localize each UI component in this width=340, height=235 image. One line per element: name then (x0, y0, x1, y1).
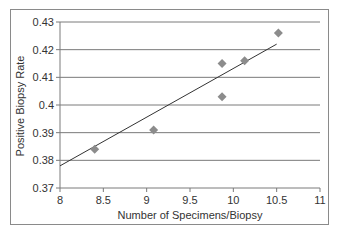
diamond-marker (90, 145, 99, 154)
y-tick-label: 0.38 (33, 154, 54, 166)
x-tick-label: 9 (144, 194, 150, 206)
diamond-marker (218, 92, 227, 101)
gridlines (60, 22, 320, 160)
y-axis-title: Positive Biopsy Rate (14, 56, 26, 157)
y-tick-label: 0.4 (39, 99, 54, 111)
x-tick-label: 10 (227, 194, 239, 206)
x-tick-label: 11 (314, 194, 325, 206)
x-axis-title: Number of Specimens/Biopsy (118, 209, 263, 221)
x-tick-label: 10.5 (266, 194, 287, 206)
y-tick-label: 0.41 (33, 71, 54, 83)
x-tick-label: 8.5 (96, 194, 111, 206)
y-axis-ticks: 0.430.420.410.40.390.380.37 (33, 16, 60, 194)
x-tick-label: 9.5 (182, 194, 197, 206)
data-points (90, 29, 283, 154)
x-axis-ticks: 88.599.51010.511 (57, 188, 326, 206)
y-tick-label: 0.43 (33, 16, 54, 28)
y-tick-label: 0.37 (33, 182, 54, 194)
diamond-marker (218, 59, 227, 68)
diamond-marker (274, 29, 283, 38)
y-tick-label: 0.39 (33, 127, 54, 139)
x-tick-label: 8 (57, 194, 63, 206)
y-tick-label: 0.42 (33, 44, 54, 56)
scatter-chart: 0.430.420.410.40.390.380.37 88.599.51010… (0, 0, 340, 235)
